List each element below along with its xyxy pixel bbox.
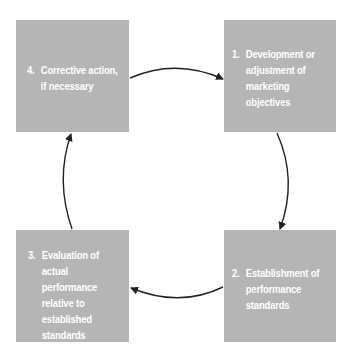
arrow-step3-to-step4 [63, 134, 72, 229]
step-4-number: 4. [27, 62, 35, 78]
step-3-line-6: standards [28, 327, 99, 343]
step-3-line-5: established [28, 311, 99, 327]
step-1-line-4: objectives [232, 94, 315, 110]
step-1-line-1: Development or [232, 46, 315, 62]
step-4-box: 4. Corrective action, if necessary [16, 20, 129, 132]
step-2-text: 2. Establishment of performance standard… [232, 265, 319, 313]
arrow-step2-to-step3 [131, 287, 223, 298]
step-2-line-1: Establishment of [232, 265, 319, 281]
step-1-line-2: adjustment of [232, 62, 315, 78]
step-4-text: 4. Corrective action, if necessary [27, 62, 118, 94]
step-3-line-1: Evaluation of [28, 247, 99, 263]
step-2-line-2: performance [232, 281, 319, 297]
step-1-text: 1. Development or adjustment of marketin… [232, 46, 315, 110]
step-2-number: 2. [232, 265, 240, 281]
arrow-step4-to-step1 [130, 68, 223, 79]
step-2-line-3: standards [232, 297, 319, 313]
step-3-line-4: relative to [28, 295, 99, 311]
step-1-number: 1. [232, 46, 240, 62]
step-1-box: 1. Development or adjustment of marketin… [224, 20, 336, 132]
step-3-text: 3. Evaluation of actual performance rela… [28, 247, 99, 343]
step-1-line-3: marketing [232, 78, 315, 94]
arrow-step1-to-step2 [277, 133, 288, 229]
step-4-line-1: Corrective action, [27, 62, 118, 78]
step-3-number: 3. [28, 247, 36, 263]
step-3-box: 3. Evaluation of actual performance rela… [16, 230, 129, 342]
step-3-line-2: actual [28, 263, 99, 279]
step-3-line-3: performance [28, 279, 99, 295]
step-2-box: 2. Establishment of performance standard… [224, 230, 336, 342]
step-4-line-2: if necessary [27, 78, 118, 94]
